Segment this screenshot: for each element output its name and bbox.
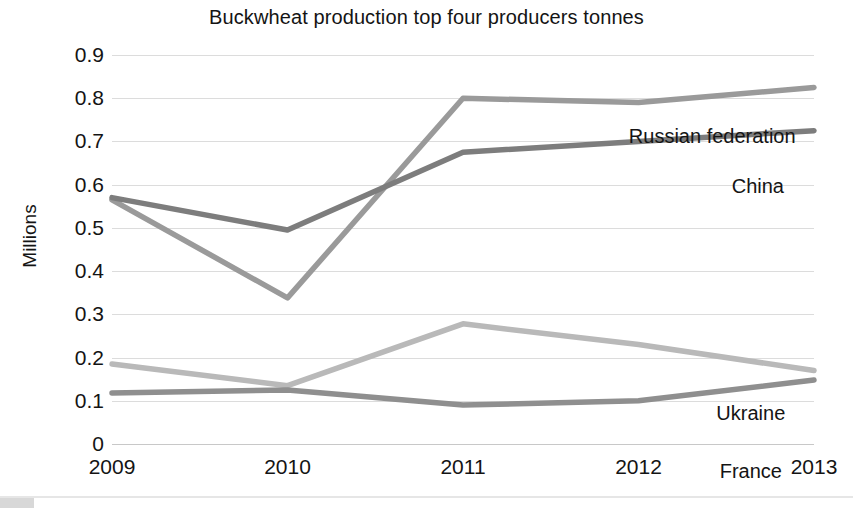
y-tick-label: 0.6 — [42, 174, 104, 195]
chart-title: Buckwheat production top four producers … — [0, 6, 853, 29]
y-tick-label: 0.9 — [42, 44, 104, 65]
plot-area: Russian federationChinaUkraineFrance — [112, 55, 814, 444]
y-tick-label: 0 — [42, 433, 104, 454]
y-tick-label: 0.2 — [42, 347, 104, 368]
page-corner-artifact — [0, 498, 34, 508]
x-tick-label: 2011 — [440, 455, 485, 479]
line-chart: Buckwheat production top four producers … — [0, 0, 853, 508]
y-tick-label: 0.8 — [42, 87, 104, 108]
series-label: China — [732, 175, 784, 198]
series-label: Ukraine — [716, 402, 785, 425]
y-tick-label: 0.3 — [42, 303, 104, 324]
x-axis-tick-labels: 20092010201120122013 — [112, 455, 814, 489]
series-lines — [112, 55, 814, 444]
y-tick-label: 0.7 — [42, 130, 104, 151]
series-line — [112, 87, 814, 297]
series-label: Russian federation — [629, 125, 796, 148]
x-tick-label: 2010 — [264, 455, 311, 479]
gridline — [112, 444, 814, 445]
y-tick-label: 0.5 — [42, 217, 104, 238]
y-tick-label: 0.1 — [42, 390, 104, 411]
x-tick-label: 2009 — [89, 455, 136, 479]
x-tick-label: 2013 — [791, 455, 838, 479]
page-edge-artifact — [0, 496, 853, 498]
y-axis-tick-labels: 00.10.20.30.40.50.60.70.80.9 — [38, 55, 104, 444]
x-tick-label: 2012 — [615, 455, 662, 479]
y-tick-label: 0.4 — [42, 260, 104, 281]
series-line — [112, 380, 814, 405]
series-line — [112, 324, 814, 386]
